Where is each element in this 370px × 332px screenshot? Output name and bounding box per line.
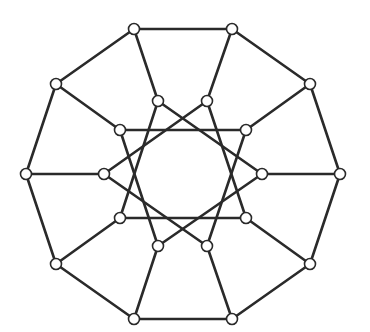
graph-node-i3 [257,169,268,180]
graph-node-i6 [153,241,164,252]
graph-node-o6 [129,314,140,325]
graph-node-i2 [241,125,252,136]
graph-node-o7 [51,259,62,270]
graph-node-o4 [305,259,316,270]
graph-edge [246,84,310,130]
graph-edge [56,29,134,84]
graph-node-i9 [115,125,126,136]
graph-node-o1 [227,24,238,35]
graph-edge [134,246,158,319]
graph-diagram [0,0,370,332]
graph-node-o0 [129,24,140,35]
graph-edge [232,29,310,84]
graph-node-i0 [153,96,164,107]
graph-edge [207,29,232,101]
graph-edges [26,29,340,319]
graph-node-i8 [99,169,110,180]
graph-edge [246,218,310,264]
graph-node-o3 [335,169,346,180]
graph-edge [207,246,232,319]
graph-node-i7 [115,213,126,224]
graph-node-i5 [202,241,213,252]
graph-edge [56,84,120,130]
graph-edge [56,218,120,264]
graph-edge [26,84,56,174]
graph-node-o5 [227,314,238,325]
graph-edge [26,174,56,264]
graph-edge [232,264,310,319]
graph-node-o9 [51,79,62,90]
graph-node-i1 [202,96,213,107]
graph-node-i4 [241,213,252,224]
graph-edge [134,29,158,101]
graph-node-o8 [21,169,32,180]
graph-edge [310,84,340,174]
graph-edge [310,174,340,264]
graph-edge [56,264,134,319]
graph-node-o2 [305,79,316,90]
